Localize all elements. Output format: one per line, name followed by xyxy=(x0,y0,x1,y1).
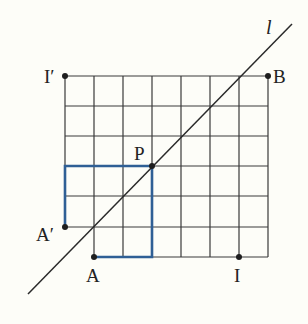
point-i-prime xyxy=(62,73,68,79)
point-b xyxy=(265,73,271,79)
reflection-diagram: I′ B P A′ A I l xyxy=(0,0,308,324)
line-l xyxy=(28,24,292,294)
label-l: l xyxy=(266,16,272,38)
label-i-prime: I′ xyxy=(44,66,54,87)
point-a xyxy=(91,254,97,260)
label-a-prime: A′ xyxy=(36,224,54,245)
label-p: P xyxy=(134,143,145,164)
label-a: A xyxy=(86,265,100,286)
point-p xyxy=(149,163,155,169)
point-a-prime xyxy=(62,224,68,230)
label-i: I xyxy=(234,265,240,286)
label-b: B xyxy=(273,66,286,87)
point-i xyxy=(236,254,242,260)
